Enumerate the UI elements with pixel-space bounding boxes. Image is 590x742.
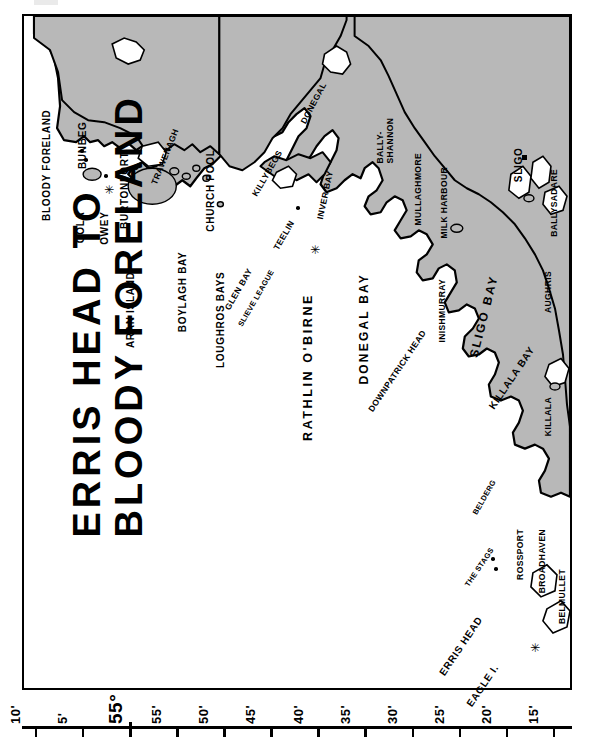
- label-boylagh-bay: BOYLAGH BAY: [177, 252, 188, 333]
- label-ballyshannon-line2: SHANNON: [386, 118, 396, 164]
- island-boylagh: [217, 202, 223, 207]
- label-inishmurray: INISHMURRAY: [437, 279, 447, 343]
- scale-label-2: 55°: [105, 694, 139, 724]
- scale-tick-10: [506, 726, 509, 737]
- scale-label-7: 35': [338, 705, 372, 724]
- scale-label-5: 45': [243, 705, 277, 724]
- label-rathlin-obirne: RATHLIN O'BIRNE: [301, 293, 315, 441]
- label-church-pool: CHURCH POOL: [205, 150, 216, 232]
- town-marker-sligo: [522, 155, 527, 160]
- scale-label-3: 55': [149, 705, 183, 724]
- scale-label-1: 5': [55, 713, 89, 724]
- label-broadhaven: BROADHAVEN: [537, 529, 547, 593]
- chart-title: ERRIS HEAD TO BLOODY FORELAND: [68, 94, 150, 538]
- island-small-2: [182, 173, 190, 179]
- scale-tick-1: [82, 726, 85, 737]
- scale-axis-line: [22, 726, 572, 729]
- scale-label-4: 50': [196, 705, 230, 724]
- scale-tick-7: [364, 726, 367, 737]
- label-loughros-bays: LOUGHROS BAYS: [215, 272, 226, 369]
- scale-tick-2: [129, 722, 133, 737]
- chart-title-line2: BLOODY FORELAND: [110, 94, 150, 538]
- scale-tick-8: [412, 726, 415, 737]
- dot-marker-stags-b: [494, 567, 498, 571]
- label-ballyshannon: BALLY- SHANNON: [376, 118, 396, 164]
- dot-marker-teelin: [296, 206, 300, 210]
- label-milk-harbour: MILK HARBOUR: [439, 167, 449, 238]
- scale-label-11: 15': [526, 705, 560, 724]
- chart-page: BLOODY FORELAND GOLA OWEY BUNBEG BURTONP…: [0, 0, 590, 742]
- scale-tick-4: [223, 726, 226, 737]
- scale-label-8: 30': [385, 705, 419, 724]
- islet-sligo-b: [531, 156, 551, 188]
- chart-title-line1: ERRIS HEAD TO: [68, 94, 108, 538]
- label-belmullet: BELMULLET: [557, 569, 567, 624]
- islet-donegal-north: [323, 46, 351, 74]
- scale-tick-3: [176, 726, 179, 737]
- label-bloody-foreland: BLOODY FORELAND: [41, 110, 52, 221]
- scale-label-0: 10': [8, 705, 42, 724]
- lighthouse-icon-eagle-island: ✳: [530, 642, 540, 654]
- island-sligo-small: [524, 195, 534, 202]
- label-ballysadare: BALLYSADARE: [549, 169, 559, 237]
- scale-label-9: 25': [432, 705, 466, 724]
- label-sligo: SLIGO: [513, 148, 524, 183]
- scale-label-6: 40': [291, 705, 325, 724]
- map-frame: BLOODY FORELAND GOLA OWEY BUNBEG BURTONP…: [22, 14, 572, 690]
- scan-artifact: [34, 0, 58, 5]
- label-aughris: AUGHRIS: [543, 271, 553, 313]
- label-rossport: ROSSPORT: [515, 529, 525, 580]
- island-small-1: [170, 168, 179, 175]
- islet-killybegs: [272, 166, 296, 188]
- lighthouse-icon-rathlin-obirne: ✳: [310, 244, 320, 256]
- island-killala-small: [550, 383, 560, 390]
- scale-label-10: 20': [479, 705, 513, 724]
- island-inishmurray: [451, 224, 463, 232]
- scale-tick-11: [553, 726, 556, 737]
- islet-killala: [545, 359, 569, 387]
- scale-tick-0: [35, 726, 38, 737]
- islet-tory: [112, 38, 144, 64]
- island-small-3: [193, 165, 200, 171]
- latitude-scale: 10'5'55°55'50'45'40'35'30'25'20'15': [22, 690, 572, 742]
- label-killala: KILLALA: [543, 397, 553, 436]
- scale-tick-9: [459, 726, 462, 737]
- dot-marker-stags-a: [491, 557, 495, 561]
- label-donegal-bay: DONEGAL BAY: [357, 273, 371, 385]
- scale-tick-6: [317, 726, 320, 737]
- scale-tick-5: [270, 726, 273, 737]
- label-mullaghmore: MULLAGHMORE: [413, 153, 423, 225]
